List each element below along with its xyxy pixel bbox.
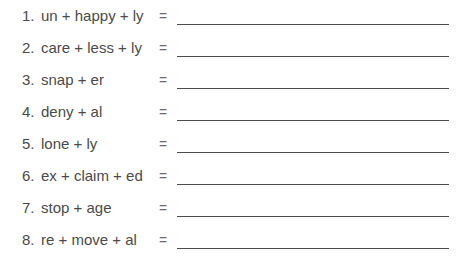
item-expression: lone + ly	[41, 135, 97, 153]
equals-sign: =	[159, 231, 167, 249]
item-expression: deny + al	[41, 103, 102, 121]
item-expression: stop + age	[41, 199, 111, 217]
worksheet-item-3: 3. snap + er =	[0, 66, 473, 98]
item-number: 8.	[22, 231, 35, 249]
equals-sign: =	[159, 71, 167, 89]
worksheet-item-5: 5. lone + ly =	[0, 130, 473, 162]
item-number: 7.	[22, 199, 35, 217]
equals-sign: =	[159, 199, 167, 217]
worksheet-item-4: 4. deny + al =	[0, 98, 473, 130]
answer-blank-line[interactable]	[177, 248, 449, 249]
item-number: 6.	[22, 167, 35, 185]
item-expression: snap + er	[41, 71, 104, 89]
item-number: 3.	[22, 71, 35, 89]
answer-blank-line[interactable]	[177, 216, 449, 217]
answer-blank-line[interactable]	[177, 88, 449, 89]
equals-sign: =	[159, 135, 167, 153]
worksheet-item-6: 6. ex + claim + ed =	[0, 162, 473, 194]
worksheet-item-8: 8. re + move + al =	[0, 226, 473, 258]
item-expression: un + happy + ly	[41, 7, 144, 25]
equals-sign: =	[159, 39, 167, 57]
worksheet-item-1: 1. un + happy + ly =	[0, 2, 473, 34]
worksheet-item-7: 7. stop + age =	[0, 194, 473, 226]
item-expression: ex + claim + ed	[41, 167, 143, 185]
equals-sign: =	[159, 103, 167, 121]
word-building-worksheet: 1. un + happy + ly = 2. care + less + ly…	[0, 0, 473, 264]
worksheet-item-2: 2. care + less + ly =	[0, 34, 473, 66]
item-number: 5.	[22, 135, 35, 153]
answer-blank-line[interactable]	[177, 120, 449, 121]
item-expression: re + move + al	[41, 231, 137, 249]
answer-blank-line[interactable]	[177, 152, 449, 153]
answer-blank-line[interactable]	[177, 184, 449, 185]
item-number: 2.	[22, 39, 35, 57]
item-expression: care + less + ly	[41, 39, 142, 57]
equals-sign: =	[159, 7, 167, 25]
answer-blank-line[interactable]	[177, 24, 449, 25]
item-number: 4.	[22, 103, 35, 121]
item-number: 1.	[22, 7, 35, 25]
answer-blank-line[interactable]	[177, 56, 449, 57]
equals-sign: =	[159, 167, 167, 185]
